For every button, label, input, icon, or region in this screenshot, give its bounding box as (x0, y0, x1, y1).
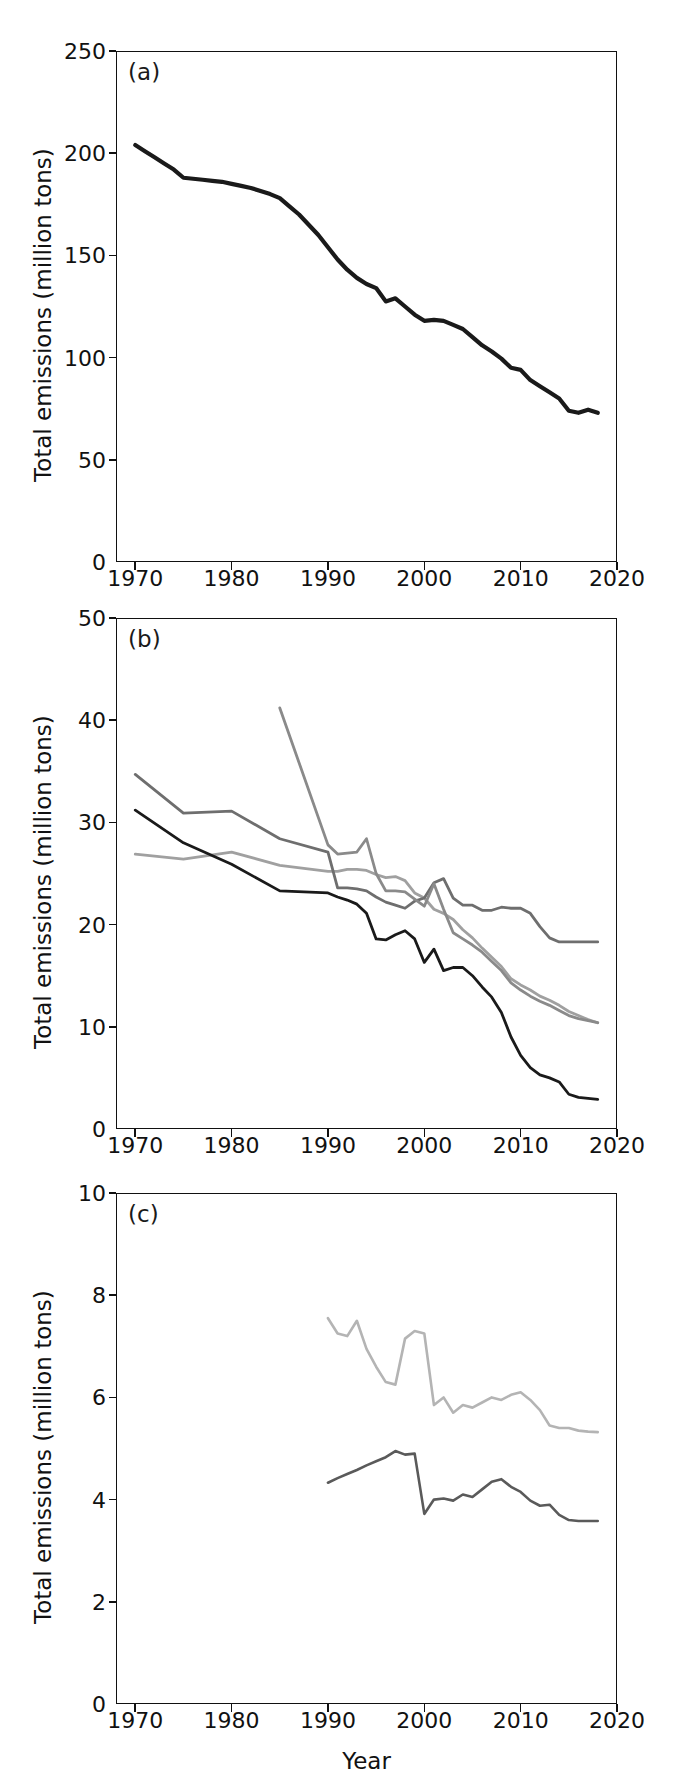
y-tick-mark-a (109, 255, 116, 257)
y-tick-label-a: 0 (54, 550, 106, 575)
x-axis-label: Year (342, 1748, 391, 1774)
x-tick-mark-b (520, 1129, 522, 1137)
y-tick-label-a: 150 (54, 243, 106, 268)
y-tick-mark-b (109, 1026, 116, 1028)
y-tick-label-c: 4 (54, 1487, 106, 1512)
y-tick-mark-b (109, 924, 116, 926)
y-tick-mark-a (109, 152, 116, 154)
y-tick-mark-c (109, 1294, 116, 1296)
y-tick-label-a: 200 (54, 141, 106, 166)
x-tick-mark-c (424, 1704, 426, 1712)
series-line-nh3 (328, 1451, 598, 1521)
series-line-pm2-5 (328, 1318, 598, 1432)
x-tick-mark-c (520, 1704, 522, 1712)
y-tick-label-a: 50 (54, 447, 106, 472)
x-tick-mark-b (231, 1129, 233, 1137)
y-tick-label-b: 20 (54, 912, 106, 937)
x-tick-mark-c (327, 1704, 329, 1712)
y-tick-label-b: 50 (54, 606, 106, 631)
y-tick-mark-b (109, 719, 116, 721)
y-tick-label-a: 250 (54, 39, 106, 64)
x-tick-mark-b (616, 1129, 618, 1137)
x-tick-mark-c (616, 1704, 618, 1712)
y-tick-label-c: 8 (54, 1283, 106, 1308)
y-tick-mark-b (109, 822, 116, 824)
x-tick-mark-b (134, 1129, 136, 1137)
y-tick-label-c: 10 (54, 1181, 106, 1206)
y-tick-label-c: 6 (54, 1385, 106, 1410)
y-tick-mark-c (109, 1397, 116, 1399)
x-tick-mark-a (616, 562, 618, 570)
x-tick-mark-a (424, 562, 426, 570)
x-tick-mark-a (520, 562, 522, 570)
y-tick-label-b: 0 (54, 1117, 106, 1142)
x-tick-mark-b (424, 1129, 426, 1137)
x-tick-mark-c (231, 1704, 233, 1712)
y-tick-mark-a (109, 459, 116, 461)
x-tick-mark-a (231, 562, 233, 570)
y-tick-mark-a (109, 357, 116, 359)
y-tick-mark-c (109, 1601, 116, 1603)
y-tick-label-b: 40 (54, 708, 106, 733)
y-tick-mark-b (109, 617, 116, 619)
y-tick-mark-a (109, 50, 116, 52)
y-tick-mark-c (109, 1499, 116, 1501)
emissions-figure: Total emissions (million tons) Total emi… (0, 0, 673, 1777)
y-tick-label-b: 30 (54, 810, 106, 835)
x-tick-mark-b (327, 1129, 329, 1137)
y-tick-label-a: 100 (54, 345, 106, 370)
y-tick-mark-c (109, 1192, 116, 1194)
y-tick-label-c: 2 (54, 1589, 106, 1614)
y-tick-label-c: 0 (54, 1692, 106, 1717)
x-tick-mark-a (134, 562, 136, 570)
y-tick-label-b: 10 (54, 1014, 106, 1039)
x-tick-mark-c (134, 1704, 136, 1712)
x-tick-mark-a (327, 562, 329, 570)
